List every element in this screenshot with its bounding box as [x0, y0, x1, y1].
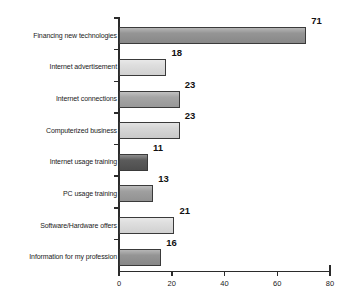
y-axis-tick [114, 144, 118, 146]
bar-value-label: 18 [171, 47, 182, 58]
bar [119, 249, 161, 266]
x-axis-tick-label: 20 [168, 279, 176, 288]
x-axis-tick [171, 271, 173, 276]
category-label: Internet connections [56, 94, 117, 103]
bar-value-label: 16 [166, 237, 177, 248]
bar [119, 91, 180, 108]
x-axis-tick [277, 271, 279, 276]
y-axis-top-cap [114, 17, 119, 19]
bar-value-label: 21 [179, 205, 190, 216]
category-label: Information for my profession [29, 252, 117, 261]
y-axis-tick [114, 175, 118, 177]
bar-value-label: 11 [153, 142, 163, 153]
bar [119, 185, 153, 202]
y-axis-tick [114, 49, 118, 51]
x-axis-tick-label: 40 [220, 279, 228, 288]
x-axis-tick-label: 0 [117, 279, 121, 288]
x-axis-tick [329, 271, 331, 276]
bar-value-label: 13 [158, 173, 169, 184]
y-axis-tick [114, 207, 118, 209]
bar [119, 59, 166, 76]
bar-value-label: 71 [311, 15, 322, 26]
chart-title [60, 0, 290, 3]
bar [119, 27, 306, 44]
bar-value-label: 23 [185, 79, 196, 90]
y-axis-tick [114, 239, 118, 241]
bar [119, 122, 180, 139]
y-axis-tick [114, 81, 118, 83]
category-label: Financing new technologies [33, 31, 117, 40]
category-label: Internet usage training [50, 157, 117, 166]
x-axis-tick [118, 271, 120, 276]
x-axis-tick-label: 60 [273, 279, 281, 288]
x-axis-tick-label: 80 [326, 279, 334, 288]
bar [119, 154, 148, 171]
bar-value-label: 23 [185, 110, 196, 121]
x-axis-tick [224, 271, 226, 276]
category-label: Internet advertisement [50, 62, 117, 71]
bar-chart: 020406080 Financing new technologies71In… [0, 0, 347, 296]
category-label: PC usage training [63, 189, 117, 198]
y-axis-tick [114, 112, 118, 114]
category-label: Software/Hardware offers [40, 221, 117, 230]
bar [119, 217, 174, 234]
category-label: Computerized business [46, 126, 117, 135]
